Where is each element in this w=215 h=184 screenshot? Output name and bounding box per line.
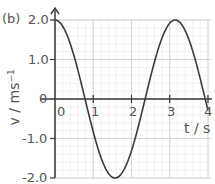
y-tick-0: 0 — [39, 92, 47, 105]
y-axis-label: v / ms−1 — [7, 69, 22, 125]
x-tick-3: 3 — [167, 105, 175, 118]
panel-label: (b) — [2, 12, 20, 25]
y-tick-neg1: -1.0 — [22, 132, 47, 145]
y-axis-label-text: v / ms — [6, 83, 22, 126]
velocity-time-chart — [0, 0, 215, 184]
x-tick-4: 4 — [204, 105, 212, 118]
x-axis-label: t / s — [184, 121, 210, 135]
x-tick-0: 0 — [57, 105, 65, 118]
x-tick-1: 1 — [91, 105, 99, 118]
x-tick-2: 2 — [129, 105, 137, 118]
y-tick-1: 1.0 — [28, 53, 49, 66]
y-tick-2: 2.0 — [28, 13, 49, 26]
y-axis-label-exponent: −1 — [6, 69, 16, 82]
y-tick-neg2: -2.0 — [22, 171, 47, 184]
